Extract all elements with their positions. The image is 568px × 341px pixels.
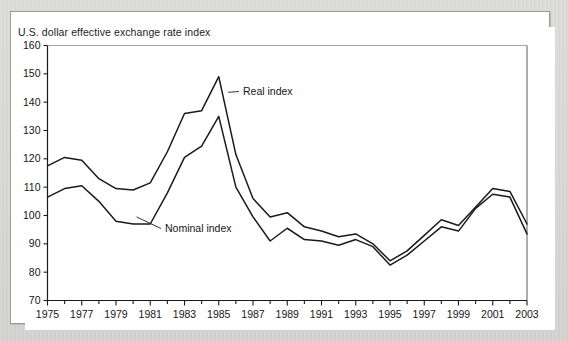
- y-tick-label: 150: [23, 67, 41, 79]
- y-tick-label: 130: [23, 124, 41, 136]
- x-tick-label: 2001: [481, 308, 505, 320]
- series-annotations: Real indexNominal index: [137, 85, 294, 234]
- x-tick-label: 1989: [276, 308, 300, 320]
- line-chart: 708090100110120130140150160 197519771979…: [0, 0, 568, 341]
- y-tick-label: 80: [29, 266, 41, 278]
- figure-root: U.S. dollar effective exchange rate inde…: [0, 0, 568, 341]
- y-axis: 708090100110120130140150160: [23, 39, 527, 306]
- x-tick-label: 1999: [447, 308, 471, 320]
- y-tick-label: 110: [24, 181, 41, 193]
- x-tick-label: 1983: [173, 308, 197, 320]
- x-tick-label: 1993: [344, 308, 368, 320]
- x-tick-label: 1985: [207, 308, 231, 320]
- y-tick-label: 90: [29, 237, 41, 249]
- y-tick-label: 120: [23, 152, 41, 164]
- y-tick-label: 100: [23, 209, 41, 221]
- y-tick-label: 160: [23, 39, 41, 51]
- x-tick-label: 1979: [104, 308, 128, 320]
- y-tick-label: 70: [29, 294, 41, 306]
- y-tick-label: 140: [23, 96, 41, 108]
- x-tick-label: 1987: [241, 308, 265, 320]
- series-line-nominal-index: [48, 116, 528, 265]
- series-lines: [48, 77, 528, 265]
- x-tick-label: 1997: [413, 308, 437, 320]
- annotation-real-index: Real index: [243, 85, 293, 97]
- x-tick-label: 1995: [378, 308, 402, 320]
- x-tick-label: 1981: [139, 308, 163, 320]
- x-tick-label: 1991: [310, 308, 334, 320]
- x-tick-label: 1977: [70, 308, 94, 320]
- x-tick-label: 2003: [515, 308, 539, 320]
- x-tick-label: 1975: [36, 308, 60, 320]
- annotation-nominal-index: Nominal index: [165, 222, 232, 234]
- series-line-real-index: [48, 77, 528, 261]
